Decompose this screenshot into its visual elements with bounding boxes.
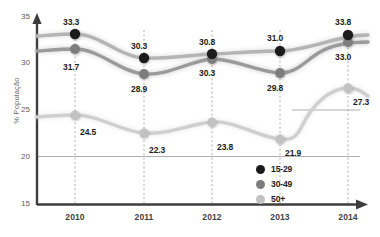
legend-dot-icon-30-49 <box>256 180 265 189</box>
legend-item-15-29[interactable]: 15-29 <box>256 164 292 174</box>
label-50plus-2013: 21.9 <box>285 148 301 158</box>
point-50plus-2010 <box>70 110 79 119</box>
label-30-49-2014: 33.0 <box>335 52 351 62</box>
legend-dot-icon-15-29 <box>256 165 265 174</box>
point-30-49-2011 <box>139 69 149 79</box>
label-50plus-2010: 24.5 <box>80 127 96 137</box>
label-50plus-2012: 23.8 <box>217 142 233 152</box>
plot-area <box>0 0 380 237</box>
x-tick-2011: 2011 <box>124 212 164 222</box>
label-30-49-2011: 28.9 <box>131 84 147 94</box>
x-tick-2010: 2010 <box>55 212 95 222</box>
point-30-49-2013 <box>275 68 285 78</box>
y-axis-arrow <box>32 13 41 24</box>
point-30-49-2010 <box>70 44 80 54</box>
label-15-29-2011: 30.3 <box>131 41 147 51</box>
label-15-29-2014: 33.8 <box>335 17 351 27</box>
point-15-29-2014 <box>343 30 353 40</box>
x-tick-2013: 2013 <box>260 212 300 222</box>
label-30-49-2013: 29.8 <box>267 83 283 93</box>
legend-label-30-49: 30-49 <box>271 179 292 189</box>
point-15-29-2013 <box>275 46 285 56</box>
legend-label-15-29: 15-29 <box>271 164 292 174</box>
label-30-49-2012: 30.3 <box>199 68 215 78</box>
x-axis-arrow <box>356 200 368 210</box>
point-50plus-2012 <box>207 117 216 126</box>
point-15-29-2012 <box>207 49 217 59</box>
legend-dot-icon-50plus <box>256 195 265 204</box>
point-50plus-2014 <box>343 83 352 92</box>
x-tick-2012: 2012 <box>192 212 232 222</box>
label-15-29-2010: 33.3 <box>63 17 79 27</box>
legend-item-50plus[interactable]: 50+ <box>256 194 285 204</box>
label-50plus-2014: 27.3 <box>353 97 369 107</box>
label-50plus-2011: 22.3 <box>149 145 165 155</box>
legend-item-30-49[interactable]: 30-49 <box>256 179 292 189</box>
label-15-29-2012: 30.8 <box>199 37 215 47</box>
point-50plus-2013 <box>275 134 284 143</box>
x-tick-2014: 2014 <box>328 212 368 222</box>
point-50plus-2011 <box>139 128 148 137</box>
point-15-29-2011 <box>139 53 149 63</box>
legend-label-50plus: 50+ <box>271 194 285 204</box>
chart-container: % População 35 30 25 20 15 <box>0 0 380 237</box>
label-15-29-2013: 31.0 <box>267 33 283 43</box>
point-15-29-2010 <box>70 29 80 39</box>
label-30-49-2010: 31.7 <box>63 62 79 72</box>
